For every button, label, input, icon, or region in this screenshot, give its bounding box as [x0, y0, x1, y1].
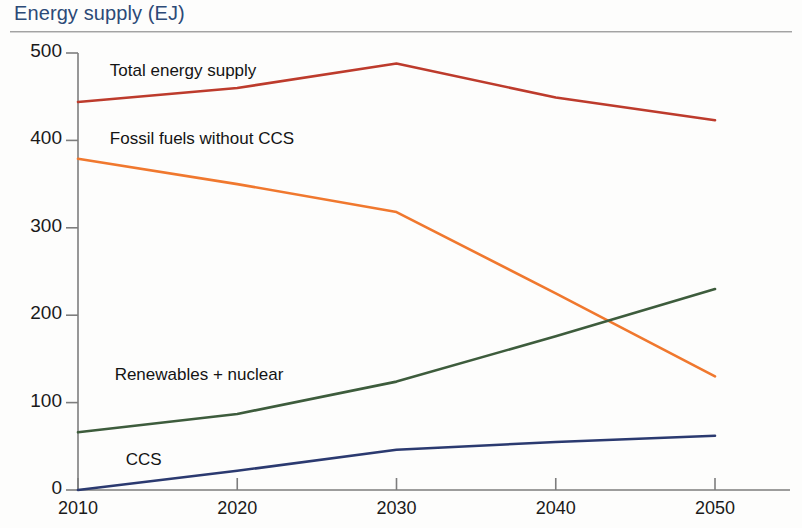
y-axis-tick-label: 400 [14, 127, 62, 149]
x-axis-tick-label: 2050 [675, 498, 755, 519]
series-label: CCS [126, 450, 162, 470]
chart-series [78, 63, 715, 490]
series-line [78, 159, 715, 377]
x-axis-tick-label: 2020 [197, 498, 277, 519]
y-axis-tick-label: 500 [14, 40, 62, 62]
y-axis-tick-label: 300 [14, 215, 62, 237]
x-axis-tick-label: 2030 [357, 498, 437, 519]
y-axis-tick-label: 100 [14, 390, 62, 412]
y-axis-tick-label: 0 [14, 477, 62, 499]
x-axis-tick-label: 2040 [516, 498, 596, 519]
series-label: Renewables + nuclear [115, 365, 284, 385]
series-line [78, 289, 715, 432]
y-axis-tick-label: 200 [14, 302, 62, 324]
chart-figure: Energy supply (EJ) 0100200300400500 2010… [0, 0, 802, 528]
series-label: Fossil fuels without CCS [110, 129, 294, 149]
chart-axes [66, 53, 790, 490]
x-axis-tick-label: 2010 [38, 498, 118, 519]
series-label: Total energy supply [110, 61, 256, 81]
